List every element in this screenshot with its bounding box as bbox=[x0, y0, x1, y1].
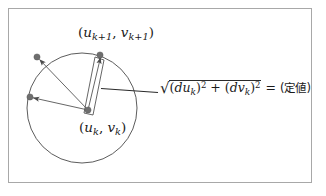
equals-operator: = bbox=[261, 80, 279, 95]
term2-variable: v bbox=[238, 80, 245, 95]
label-next-point: (uk+1, vk+1) bbox=[78, 26, 154, 41]
figure-canvas: (uk+1, vk+1) (uk, vk) √(duk)2 + (dvk)2 =… bbox=[0, 0, 326, 196]
label-next-u: u bbox=[83, 24, 92, 40]
label-next-close: ) bbox=[149, 24, 154, 40]
point-left bbox=[27, 94, 33, 100]
leader-line bbox=[101, 89, 158, 93]
vector-to-upper-left bbox=[40, 60, 89, 111]
constraint-circle bbox=[27, 53, 137, 163]
term2-differential: d bbox=[230, 80, 238, 95]
label-next-v-subscript: k+1 bbox=[128, 31, 148, 42]
label-next-u-subscript: k+1 bbox=[92, 31, 112, 42]
vector-to-left bbox=[33, 98, 88, 110]
label-curr-v: v bbox=[107, 119, 115, 135]
label-next-comma: , bbox=[112, 24, 121, 40]
formula-result: (定値) bbox=[280, 81, 311, 95]
diagram-graphics bbox=[0, 0, 326, 196]
point-upper-left bbox=[34, 54, 40, 60]
term2-exponent: 2 bbox=[255, 80, 260, 90]
point-center bbox=[85, 107, 91, 113]
point-top-right bbox=[97, 52, 103, 58]
distance-formula: √(duk)2 + (dvk)2 = (定値) bbox=[160, 80, 311, 97]
label-curr-close: ) bbox=[121, 119, 126, 135]
term1-variable: u bbox=[182, 80, 190, 95]
label-current-point: (uk, vk) bbox=[79, 121, 126, 136]
label-curr-u: u bbox=[84, 119, 93, 135]
plus-operator: + bbox=[206, 80, 224, 95]
radicand: (duk)2 + (dvk)2 bbox=[169, 80, 262, 97]
